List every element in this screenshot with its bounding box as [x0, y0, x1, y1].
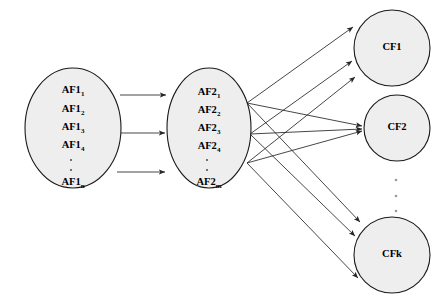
figure-caption-fragment	[4, 297, 304, 306]
node-cfk[interactable]: CFk	[354, 217, 430, 293]
edge-af2-3-cf2	[247, 131, 362, 163]
af1-ellipsis-dot-1	[70, 159, 72, 161]
network-diagram: AF11 AF12 AF13 AF14 AF1n AF21 AF22 AF23 …	[0, 0, 439, 306]
node-layer-af1[interactable]: AF11 AF12 AF13 AF14 AF1n	[25, 68, 121, 190]
node-cf2[interactable]: CF2	[364, 95, 430, 161]
output-ellipsis-dot-2	[395, 195, 398, 198]
cf1-label: CF1	[382, 41, 401, 52]
af1-ellipsis-dot-2	[70, 169, 72, 171]
output-ellipsis-dot-3	[395, 210, 398, 213]
output-ellipsis-dot-1	[395, 179, 398, 182]
node-layer-af2[interactable]: AF21 AF22 AF23 AF24 AF2m	[167, 68, 251, 190]
output-ellipsis-group	[395, 179, 398, 213]
af2-ellipsis-dot-2	[206, 169, 208, 171]
edge-af2-2-cf2	[250, 129, 362, 134]
edge-af2-2-cf1	[250, 61, 352, 134]
cf2-label: CF2	[387, 121, 406, 132]
node-cf1[interactable]: CF1	[354, 10, 430, 86]
figure-root: AF11 AF12 AF13 AF14 AF1n AF21 AF22 AF23 …	[0, 0, 439, 306]
edge-af2-1-cfk	[247, 103, 360, 222]
af2-ellipsis-dot-1	[206, 159, 208, 161]
cfk-label: CFk	[382, 248, 402, 259]
edge-af2-1-cf2	[247, 103, 362, 126]
fanout-edge-group	[247, 27, 362, 278]
inter-layer-edge-group	[117, 95, 166, 172]
edge-af2-3-cfk	[247, 163, 358, 278]
